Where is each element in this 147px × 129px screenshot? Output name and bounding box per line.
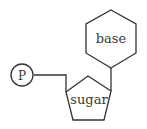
- phosphate-label: P: [18, 69, 26, 83]
- sugar-group: sugar: [66, 76, 111, 120]
- sugar-label: sugar: [70, 92, 108, 107]
- base-group: base: [86, 10, 136, 68]
- phosphate-sugar-bond: [34, 75, 66, 92]
- nucleotide-diagram: base sugar P: [0, 0, 147, 129]
- base-label: base: [96, 31, 127, 46]
- phosphate-group: P: [11, 64, 33, 86]
